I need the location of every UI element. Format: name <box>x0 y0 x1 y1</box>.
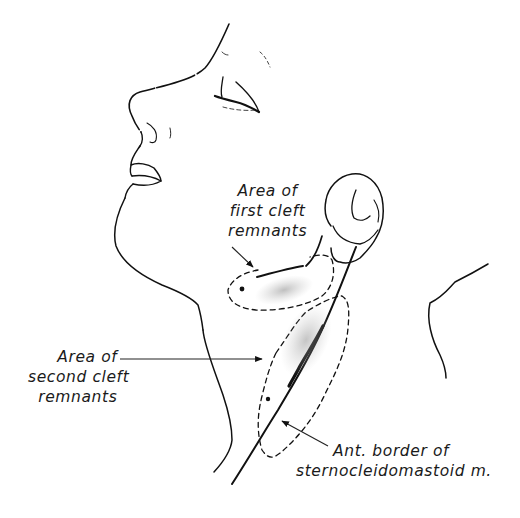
eye-lid <box>221 77 223 97</box>
chin-jaw <box>115 198 203 330</box>
lower-lip <box>132 176 161 186</box>
forehead-outline <box>129 24 229 132</box>
throat-outline <box>203 330 232 472</box>
first-cleft-pointer <box>232 247 253 267</box>
label-line: sternocleidomastoid m. <box>296 461 492 481</box>
first-cleft-opening-dot <box>240 287 245 292</box>
label-line: first cleft <box>228 201 307 221</box>
mandible-posterior <box>306 236 322 266</box>
label-line: remnants <box>228 221 307 241</box>
ear-inner <box>352 190 370 220</box>
label-line: remnants <box>28 387 117 407</box>
eye-upper <box>236 82 259 112</box>
label-first-cleft-remnants: Area of first cleft remnants <box>228 181 307 241</box>
label-line: second cleft <box>28 367 129 387</box>
nose-tip <box>140 132 142 146</box>
shoulder-outline <box>429 264 488 378</box>
label-line: Area of <box>28 347 117 367</box>
label-second-cleft-remnants: Area of second cleft remnants <box>28 347 129 407</box>
label-line: Ant. border of <box>333 441 492 461</box>
label-line: Area of <box>228 181 307 201</box>
nostril <box>147 123 156 143</box>
label-scm-anterior-border: Ant. border of sternocleidomastoid m. <box>296 441 492 481</box>
earlobe <box>333 226 378 244</box>
second-cleft-opening-dot <box>266 397 270 401</box>
